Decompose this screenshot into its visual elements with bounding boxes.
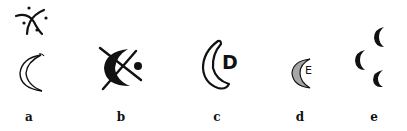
crescent-left <box>355 50 365 70</box>
panel-label-d: d <box>290 110 310 124</box>
crescent-top <box>374 27 384 47</box>
panel-a: a <box>0 0 80 131</box>
panel-d: E d <box>280 0 325 131</box>
panel-label-e: e <box>364 110 384 124</box>
crescent-symbols-figure: a b D c <box>0 0 407 131</box>
crescent-bottom <box>373 70 383 87</box>
panel-c: D c <box>170 0 270 131</box>
panel-b: b <box>80 0 180 131</box>
letter-e: E <box>305 65 312 77</box>
double-crescent-icon <box>0 0 80 131</box>
panel-label-a: a <box>19 110 39 124</box>
panel-label-c: c <box>207 110 227 124</box>
panel-e: e <box>340 0 407 131</box>
panel-label-b: b <box>111 110 131 124</box>
letter-d: D <box>222 52 238 72</box>
